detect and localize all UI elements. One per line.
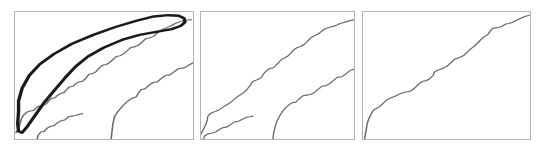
- figure-container: [0, 0, 553, 151]
- chart-panel-2: [200, 11, 355, 140]
- chart-panel-1: [14, 11, 194, 140]
- panel-1-plot-area: [15, 12, 193, 139]
- chart-panel-3: [362, 11, 531, 140]
- panel-2-lower-left-jagged-boundary: [203, 116, 253, 139]
- panel-3-plot-area: [363, 12, 530, 139]
- panel-1-closed-ellipse-contour: [18, 15, 185, 132]
- panel-1-right-jagged-boundary: [111, 63, 193, 139]
- panel-2-plot-area: [201, 12, 354, 139]
- panel-3-single-jagged-boundary: [365, 15, 529, 138]
- panel-2-upper-jagged-boundary: [201, 20, 354, 134]
- panel-2-right-jagged-boundary: [273, 69, 354, 139]
- panel-1-lower-jagged-boundary: [37, 114, 82, 139]
